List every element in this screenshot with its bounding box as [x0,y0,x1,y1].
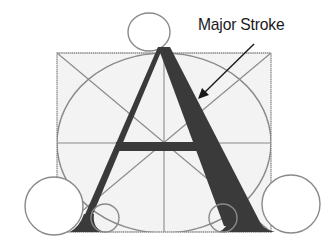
serif-circle-left-large [25,177,83,235]
apex-circle [128,13,170,51]
crossbar [116,142,216,151]
major-stroke-label: Major Stroke [198,15,284,35]
letter-construction-diagram: Major Stroke [0,0,332,246]
serif-circle-right-large [262,175,320,233]
